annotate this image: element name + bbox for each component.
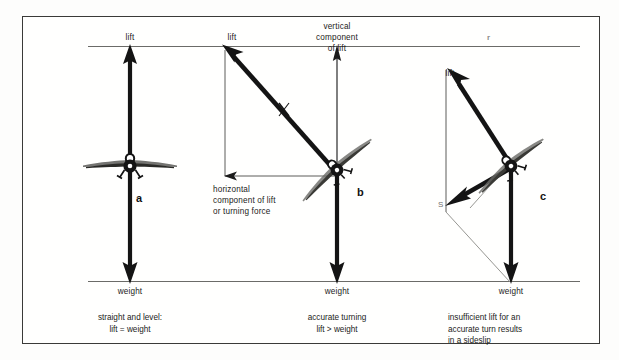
panel-b-horizontal-component-line-2: component of lift [213,195,276,206]
panel-b-vertical-component-line-1: vertical [316,21,358,32]
panel-c-sideslip-mark: S [438,200,443,209]
panel-b-horizontal-component-line-3: or turning force [213,206,276,217]
panel-b-lift-label: lift [228,32,237,43]
panel-a-caption-line-1: straight and level: [98,312,162,324]
panel-b-vertical-component-arrow [333,45,341,176]
panel-b-vertical-component-label: vertical component of lift [316,21,358,54]
diagram-canvas [0,0,619,360]
panel-a-weight-vector [123,170,138,284]
panel-b-horizontal-component-label: horizontal component of lift or turning … [213,184,276,217]
panel-c-faint-mark: r [487,33,490,42]
panel-a-lift-vector [123,44,137,170]
panel-b-horizontal-component-line-1: horizontal [213,184,276,195]
panel-c-lift-label: lift [446,68,455,79]
panel-c-weight-vector [504,170,519,284]
panel-a-weight-label: weight [118,286,143,297]
panel-b-component-construction [224,50,337,181]
panel-c-caption-line-1: insufficient lift for an [448,312,522,324]
panel-b-letter: b [357,186,364,198]
panel-b-vertical-component-line-2: component [316,32,358,43]
panel-b-caption-line-1: accurate turning [308,312,367,324]
panel-a-caption: straight and level: lift = weight [98,312,162,335]
panel-c-lift-vector [447,68,511,165]
figure-aerodynamics-forces: lift weight a straight and level: lift =… [0,0,619,360]
panel-b-vertical-component-line-3: of lift [316,43,358,54]
panel-c-caption-line-3: in a sideslip [448,335,522,347]
panel-b-caption-line-2: lift > weight [308,324,367,336]
panel-a-lift-label: lift [126,32,135,43]
panel-a-letter: a [136,192,142,204]
panel-c-caption: insufficient lift for an accurate turn r… [448,312,522,347]
panel-a-caption-line-2: lift = weight [98,324,162,336]
panel-c-construction-lines [446,70,513,282]
panel-c-caption-line-2: accurate turn results [448,324,522,336]
panel-b-weight-label: weight [325,286,350,297]
panel-b-weight-vector [330,176,345,284]
panel-b-lift-vector [222,45,337,174]
panel-c-letter: c [540,190,546,202]
panel-a-aircraft-front-view [83,154,177,179]
panel-c-weight-label: weight [499,286,524,297]
panel-b-caption: accurate turning lift > weight [308,312,367,335]
